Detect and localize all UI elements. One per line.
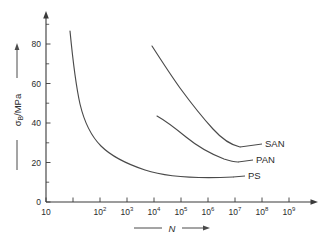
- series-label-pan: PAN: [256, 154, 275, 165]
- x-tick-label-8: 108: [256, 206, 269, 217]
- series-label-san: SAN: [265, 138, 285, 149]
- series-curve-ps: [70, 31, 233, 178]
- chart-plot-area: 0 20 40 60 80 10 102: [0, 0, 326, 239]
- series-curve-pan: [157, 116, 238, 162]
- y-axis-title-arrowhead: [15, 43, 20, 50]
- series-curve-san: [152, 46, 240, 147]
- series-label-ps: PS: [248, 170, 261, 181]
- x-axis-title-group: N: [134, 223, 210, 234]
- x-axis: 10 102 103 104 105 106 107 108 109: [41, 198, 318, 218]
- x-axis-title-arrowhead: [203, 225, 210, 230]
- y-tick-label-60: 60: [32, 79, 42, 89]
- x-tick-label-7: 107: [229, 206, 242, 217]
- y-axis: 0 20 40 60 80: [32, 11, 51, 207]
- y-axis-title: σB/MPa: [12, 93, 24, 126]
- chart-figure: 0 20 40 60 80 10 102: [0, 0, 326, 239]
- x-tick-label-9: 109: [283, 206, 296, 217]
- x-tick-label-5: 105: [175, 206, 188, 217]
- y-tick-label-0: 0: [36, 197, 41, 207]
- x-tick-label-6: 106: [202, 206, 215, 217]
- y-axis-major-ticks: [46, 44, 51, 202]
- y-axis-title-group: σB/MPa: [12, 43, 24, 170]
- y-tick-label-80: 80: [32, 39, 42, 49]
- x-axis-major-ticks: [46, 198, 289, 203]
- x-tick-label-2: 102: [94, 206, 107, 217]
- series-leader-san: [240, 144, 262, 147]
- y-axis-arrowhead: [43, 11, 49, 19]
- y-tick-label-20: 20: [32, 158, 42, 168]
- x-axis-title: N: [169, 223, 176, 234]
- x-axis-arrowhead: [311, 199, 319, 205]
- y-tick-label-40: 40: [32, 118, 42, 128]
- x-tick-label-3: 103: [121, 206, 134, 217]
- series-leader-ps: [233, 176, 245, 177]
- x-tick-label-1: 10: [41, 207, 51, 217]
- series-leader-pan: [238, 160, 253, 162]
- x-tick-label-4: 104: [148, 206, 161, 217]
